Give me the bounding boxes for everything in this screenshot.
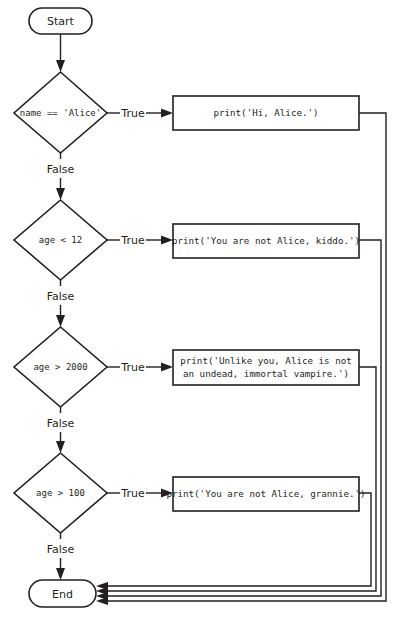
flowchart-canvas: Start name == 'Alice' True print('Hi, Al… xyxy=(0,0,395,619)
true-label-1: True xyxy=(120,107,145,120)
false-label-3: False xyxy=(47,417,75,430)
true-label-3: True xyxy=(120,361,145,374)
arrowhead-icon xyxy=(161,363,173,372)
arrowhead-icon xyxy=(56,568,65,580)
decision-4-condition: age > 100 xyxy=(36,488,85,498)
end-label: End xyxy=(52,588,73,601)
decision-4: age > 100 xyxy=(14,453,107,533)
start-label: Start xyxy=(47,15,75,28)
true-label-4: True xyxy=(120,487,145,500)
start-terminal: Start xyxy=(29,8,92,34)
action-1-line-1: print('Hi, Alice.') xyxy=(213,107,318,118)
action-box-2: print('You are not Alice, kiddo.') xyxy=(172,224,360,258)
action-4-line-1: print('You are not Alice, grannie.') xyxy=(166,488,365,499)
arrowhead-icon xyxy=(56,188,65,200)
decision-3: age > 2000 xyxy=(14,327,107,407)
action-3-line-1: print('Unlike you, Alice is not xyxy=(180,355,351,366)
decision-1: name == 'Alice' xyxy=(14,72,107,153)
false-label-4: False xyxy=(47,543,75,556)
action-2-line-1: print('You are not Alice, kiddo.') xyxy=(172,235,360,246)
decision-1-condition: name == 'Alice' xyxy=(20,108,101,118)
action-3-line-2: an undead, immortal vampire.') xyxy=(183,368,349,379)
action-box-3: print('Unlike you, Alice is not an undea… xyxy=(173,350,359,385)
true-label-2: True xyxy=(120,234,145,247)
false-label-1: False xyxy=(47,163,75,176)
decision-3-condition: age > 2000 xyxy=(33,362,87,372)
action-box-4: print('You are not Alice, grannie.') xyxy=(166,477,365,511)
decision-2: age < 12 xyxy=(14,200,107,280)
arrowhead-icon xyxy=(161,109,173,118)
arrowhead-icon xyxy=(56,441,65,453)
arrowhead-icon xyxy=(56,60,65,72)
arrowhead-icon xyxy=(56,315,65,327)
end-terminal: End xyxy=(29,580,96,607)
false-label-2: False xyxy=(47,290,75,303)
return-connector-2 xyxy=(106,240,381,596)
action-box-1: print('Hi, Alice.') xyxy=(173,96,359,130)
arrowhead-icon xyxy=(96,582,108,590)
decision-2-condition: age < 12 xyxy=(39,235,82,245)
